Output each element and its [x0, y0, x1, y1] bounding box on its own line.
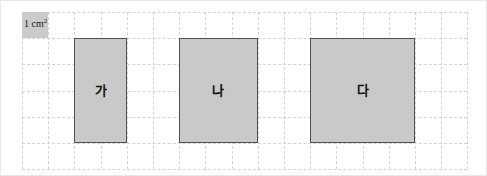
grid-line-vertical — [127, 12, 128, 169]
grid-line-horizontal — [22, 143, 467, 144]
shape-label-da: 다 — [357, 84, 369, 97]
grid-line-vertical — [258, 12, 259, 169]
grid-line-horizontal — [22, 169, 467, 170]
shape-rectangle-ga: 가 — [74, 38, 126, 143]
unit-square-legend-label: 1 cm2 — [22, 19, 47, 29]
grid-line-horizontal — [22, 12, 467, 13]
grid-line-vertical — [48, 12, 49, 169]
figure-canvas: 1 cm2 가나다 — [0, 0, 487, 176]
grid-line-vertical — [153, 12, 154, 169]
grid-line-vertical — [441, 12, 442, 169]
grid-line-vertical — [284, 12, 285, 169]
shape-label-ga: 가 — [95, 84, 107, 97]
shape-label-na: 나 — [212, 84, 224, 97]
grid-line-vertical — [467, 12, 468, 169]
shape-rectangle-na: 나 — [179, 38, 258, 143]
shape-rectangle-da: 다 — [310, 38, 415, 143]
grid-line-vertical — [415, 12, 416, 169]
unit-square-exponent: 2 — [44, 17, 48, 25]
unit-square-legend: 1 cm2 — [22, 12, 48, 38]
